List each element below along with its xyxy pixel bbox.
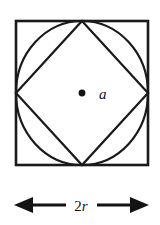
dimension-arrow: 2r xyxy=(14,197,149,214)
dimension-arrowhead-left xyxy=(14,197,33,213)
dimension-label-number: 2 xyxy=(74,198,82,214)
figure-canvas: a 2r xyxy=(0,0,160,225)
dimension-label-variable: r xyxy=(82,198,88,214)
geometry-figure: a 2r xyxy=(0,0,160,225)
dimension-arrowhead-right xyxy=(130,197,149,213)
center-point xyxy=(79,90,86,97)
dimension-label: 2r xyxy=(74,198,88,214)
center-label-a: a xyxy=(99,86,107,102)
